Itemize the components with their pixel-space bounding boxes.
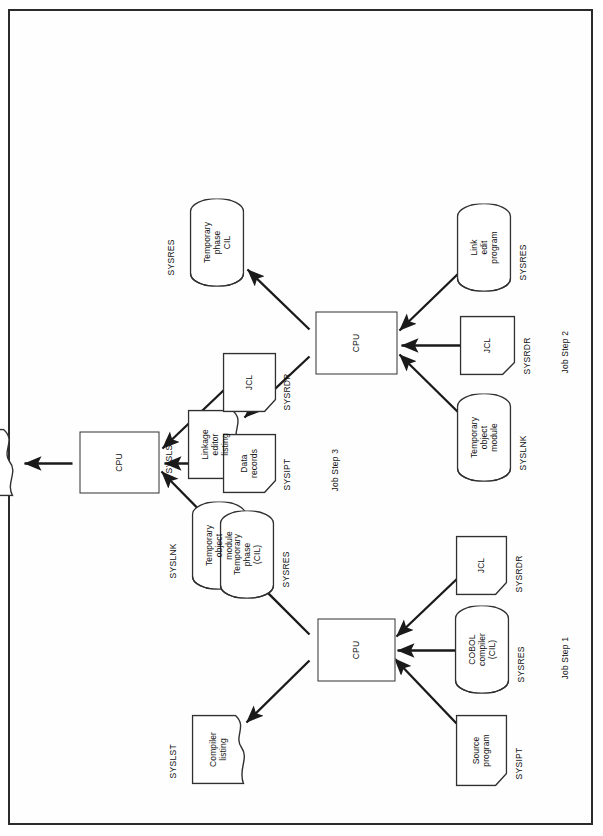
device-label-sysres-2: SYSRES xyxy=(517,244,527,280)
node-data-records[interactable]: Datarecords xyxy=(222,433,276,493)
node-label: CPU xyxy=(351,619,361,680)
node-link-edit-program[interactable]: Linkeditprogram xyxy=(456,203,511,291)
node-cobol-compiler[interactable]: COBOLcompiler(CIL) xyxy=(454,605,509,693)
device-label-syslnk-2: SYSLNK xyxy=(517,435,527,470)
node-temp-object-module-in[interactable]: Temporaryobjectmodule xyxy=(456,393,511,481)
device-label-sysrdr-3: SYSRDR xyxy=(281,373,291,410)
node-report[interactable]: Report xyxy=(0,428,14,496)
node-cpu-step1[interactable]: CPU xyxy=(317,618,395,681)
device-label-sysrdr-1: SYSRDR xyxy=(513,555,523,592)
node-jcl-step1[interactable]: JCL xyxy=(455,535,507,595)
step-label-3: Job Step 3 xyxy=(329,448,339,491)
step-label-1: Job Step 1 xyxy=(559,636,569,679)
node-cpu-step3[interactable]: CPU xyxy=(79,431,159,493)
node-source-program[interactable]: Sourceprogram xyxy=(455,714,507,786)
device-label-sysres-4: SYSRES xyxy=(280,551,290,587)
diagram-page: Sourceprogram SYSIPT COBOLcompiler(CIL) … xyxy=(0,0,603,836)
device-label-sysipt-1: SYSIPT xyxy=(513,747,523,779)
node-temporary-phase-cil-out[interactable]: TemporaryphaseCIL xyxy=(189,198,244,286)
device-label-sysrdr-2: SYSRDR xyxy=(521,337,531,374)
node-jcl-step2[interactable]: JCL xyxy=(459,315,515,375)
node-jcl-step3[interactable]: JCL xyxy=(222,352,276,412)
device-label-syslnk-1: SYSLNK xyxy=(167,543,177,578)
step-label-2: Job Step 2 xyxy=(559,330,569,373)
device-label-syslst-1: SYSLST xyxy=(167,744,177,778)
device-label-sysres-1: SYSRES xyxy=(515,646,525,682)
node-label: CPU xyxy=(351,312,361,373)
node-cpu-step2[interactable]: CPU xyxy=(315,311,397,374)
device-label-syslst-2: SYSLST xyxy=(163,439,173,473)
diagram-rotation-wrapper: Sourceprogram SYSIPT COBOLcompiler(CIL) … xyxy=(0,0,603,836)
device-label-sysipt-2: SYSIPT xyxy=(281,458,291,490)
node-label: CPU xyxy=(114,432,124,492)
diagram-canvas: Sourceprogram SYSIPT COBOLcompiler(CIL) … xyxy=(9,10,594,826)
node-compiler-listing[interactable]: Compilerlisting xyxy=(191,714,245,784)
node-temporary-phase-cil-in[interactable]: Temporaryphase(CIL) xyxy=(219,510,274,598)
device-label-sysres-3: SYSRES xyxy=(165,239,175,275)
